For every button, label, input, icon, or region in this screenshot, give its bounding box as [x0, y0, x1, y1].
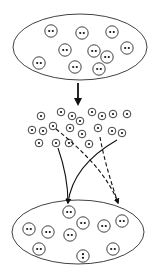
diploid-individual-icon — [59, 44, 71, 56]
parent-population — [13, 14, 147, 80]
diploid-individual-icon — [116, 215, 128, 227]
diploid-individual-icon — [23, 223, 35, 235]
gamete-icon — [76, 117, 84, 125]
solid-mating-arrow — [68, 140, 117, 203]
diploid-individual-icon — [45, 25, 57, 37]
gamete-icon — [123, 110, 131, 118]
gamete-icon — [66, 124, 74, 132]
diploid-individual-icon — [101, 51, 113, 63]
gamete-icon — [65, 139, 73, 147]
gamete-icon — [28, 126, 36, 134]
diploid-individual-icon — [107, 243, 119, 255]
gamete-icon — [85, 140, 93, 148]
diploid-individual-icon — [93, 63, 105, 75]
gamete-icon — [78, 130, 86, 138]
diploid-individual-icon — [33, 57, 45, 69]
random-mating-diagram — [0, 0, 160, 276]
diagram-svg — [0, 0, 160, 276]
gamete-icon — [37, 112, 45, 120]
diploid-individual-icon — [33, 243, 45, 255]
down-arrow-icon — [74, 83, 82, 106]
gamete-pool — [28, 108, 131, 148]
diploid-individual-icon — [77, 217, 89, 229]
diploid-individual-icon — [64, 229, 76, 241]
diploid-individual-icon — [88, 45, 100, 57]
diploid-individual-icon — [106, 26, 118, 38]
diploid-individual-icon — [42, 226, 54, 238]
diploid-individual-icon — [63, 206, 75, 218]
dashed-mating-arrow — [56, 129, 118, 203]
gamete-icon — [68, 112, 76, 120]
diploid-individual-icon — [69, 61, 81, 73]
diploid-individual-icon — [76, 27, 88, 39]
gamete-icon — [98, 112, 106, 120]
gamete-icon — [118, 129, 126, 137]
gamete-icon — [57, 108, 65, 116]
gamete-icon — [108, 127, 116, 135]
mating-connectors — [56, 129, 118, 203]
dashed-mating-arrow — [100, 137, 118, 203]
diploid-individual-icon — [77, 250, 89, 262]
gamete-icon — [52, 139, 60, 147]
gamete-icon — [39, 127, 47, 135]
solid-mating-arrow — [58, 148, 68, 203]
diploid-individual-icon — [98, 220, 110, 232]
gamete-icon — [109, 110, 117, 118]
gamete-icon — [49, 122, 57, 130]
gamete-icon — [88, 108, 96, 116]
offspring-population — [12, 200, 144, 264]
diploid-individual-icon — [121, 42, 133, 54]
gamete-icon — [94, 124, 102, 132]
gamete-icon — [35, 139, 43, 147]
